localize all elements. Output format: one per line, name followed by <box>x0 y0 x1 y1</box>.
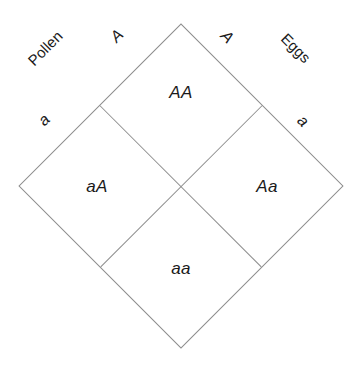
punnett-cell-top: AA <box>169 84 192 101</box>
axis-label-eggs: Eggs <box>279 31 314 66</box>
eggs-allele-dominant: A <box>218 28 237 47</box>
axis-label-pollen: Pollen <box>25 28 65 68</box>
punnett-square-diagram: AA aA Aa aa Pollen A a Eggs A a <box>0 0 361 367</box>
punnett-cell-right: Aa <box>256 178 277 195</box>
eggs-allele-recessive: a <box>294 112 312 130</box>
punnett-cell-left: aA <box>86 178 107 195</box>
punnett-grid-outline <box>18 23 343 348</box>
pollen-allele-recessive: a <box>35 111 53 129</box>
punnett-cell-bottom: aa <box>171 260 191 277</box>
pollen-allele-dominant: A <box>108 27 127 46</box>
